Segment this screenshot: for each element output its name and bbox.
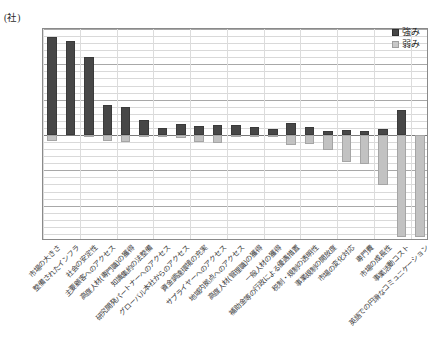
legend-item-weakness: 弱み [392,38,420,50]
legend-swatch-strength-icon [392,29,399,36]
bar-group[interactable] [268,29,278,239]
legend-label-weakness: 弱み [402,38,420,50]
bar-weakness[interactable] [378,135,388,185]
bar-weakness[interactable] [158,135,168,137]
bar-weakness[interactable] [268,135,278,137]
bar-weakness[interactable] [213,135,223,143]
bars-layer [43,29,427,239]
bar-strength[interactable] [286,123,296,135]
bar-weakness[interactable] [305,135,315,144]
bar-strength[interactable] [47,37,57,135]
y-axis: (社) [0,0,42,356]
bar-strength[interactable] [121,107,131,135]
bar-group[interactable] [47,29,57,239]
bar-chart: (社) 150100500−50−100−150 強み 弱み 市場の大きさ整備さ… [0,0,432,356]
bar-strength[interactable] [103,105,113,135]
bar-weakness[interactable] [286,135,296,145]
bar-group[interactable] [158,29,168,239]
bar-weakness[interactable] [342,135,352,162]
bar-group[interactable] [231,29,241,239]
bar-group[interactable] [286,29,296,239]
bar-strength[interactable] [194,126,204,135]
plot-area [42,28,428,240]
bar-group[interactable] [194,29,204,239]
bar-group[interactable] [360,29,370,239]
bar-weakness[interactable] [415,135,425,237]
bar-weakness[interactable] [231,135,241,137]
bar-group[interactable] [66,29,76,239]
bar-strength[interactable] [176,124,186,135]
bar-weakness[interactable] [121,135,131,142]
bar-weakness[interactable] [103,135,113,141]
bar-strength[interactable] [84,57,94,135]
bar-weakness[interactable] [397,135,407,237]
bar-weakness[interactable] [84,135,94,137]
bar-group[interactable] [84,29,94,239]
legend-label-strength: 強み [402,26,420,38]
bar-group[interactable] [415,29,425,239]
bar-weakness[interactable] [47,135,57,141]
bar-group[interactable] [121,29,131,239]
bar-weakness[interactable] [250,135,260,137]
bar-group[interactable] [250,29,260,239]
bar-group[interactable] [342,29,352,239]
bar-strength[interactable] [66,41,76,135]
bar-group[interactable] [397,29,407,239]
bar-strength[interactable] [397,110,407,135]
y-axis-unit-label: (社) [4,10,20,24]
bar-group[interactable] [176,29,186,239]
bar-group[interactable] [378,29,388,239]
bar-group[interactable] [305,29,315,239]
legend: 強み 弱み [392,26,420,50]
bar-weakness[interactable] [176,135,186,138]
bar-strength[interactable] [213,125,223,135]
bar-strength[interactable] [139,120,149,135]
bar-weakness[interactable] [323,135,333,150]
bar-strength[interactable] [305,127,315,135]
bar-weakness[interactable] [139,135,149,137]
bar-group[interactable] [103,29,113,239]
legend-swatch-weakness-icon [392,41,399,48]
x-axis-tick-labels: 市場の大きさ整備されたインフラ社会の安定性主要顧客へのアクセス高度人材(専門職)… [42,241,428,356]
legend-item-strength: 強み [392,26,420,38]
bar-group[interactable] [323,29,333,239]
bar-strength[interactable] [250,127,260,135]
bar-weakness[interactable] [360,135,370,164]
bar-weakness[interactable] [194,135,204,142]
bar-group[interactable] [213,29,223,239]
bar-strength[interactable] [158,128,168,135]
bar-strength[interactable] [231,125,241,135]
bar-group[interactable] [139,29,149,239]
